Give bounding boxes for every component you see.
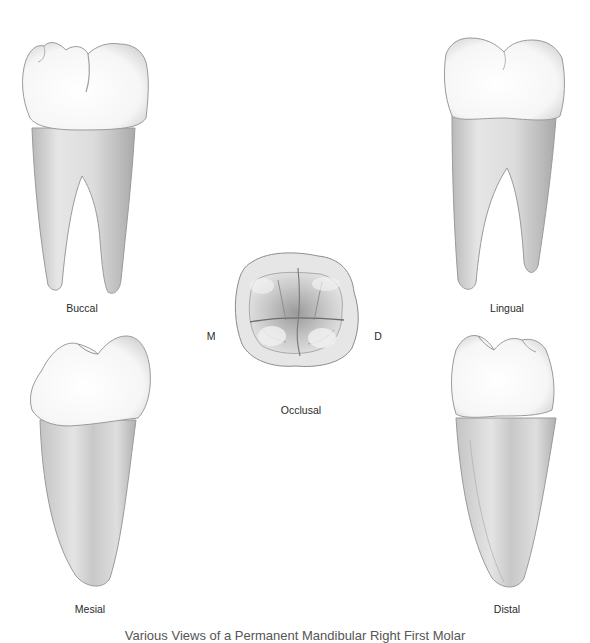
distal-crown [452, 336, 555, 418]
orientation-distal-marker: D [374, 330, 382, 342]
figure-caption: Various Views of a Permanent Mandibular … [125, 628, 466, 643]
buccal-view-tooth [23, 43, 149, 294]
label-occlusal: Occlusal [281, 404, 321, 416]
label-mesial: Mesial [75, 603, 105, 615]
mesial-view-tooth [30, 336, 150, 586]
distal-view-tooth [452, 336, 557, 587]
orientation-mesial-marker: M [207, 330, 216, 342]
label-distal: Distal [494, 603, 520, 615]
label-lingual: Lingual [490, 302, 524, 314]
mesial-crown [30, 336, 150, 426]
label-buccal: Buccal [66, 302, 98, 314]
mesial-root [40, 420, 136, 586]
lingual-roots [452, 116, 556, 289]
occlusal-view-tooth [235, 253, 358, 367]
distal-root [456, 418, 556, 587]
buccal-crown [23, 43, 149, 130]
buccal-mesial-root [32, 128, 135, 293]
lingual-view-tooth [444, 38, 564, 289]
lingual-crown [444, 38, 564, 120]
